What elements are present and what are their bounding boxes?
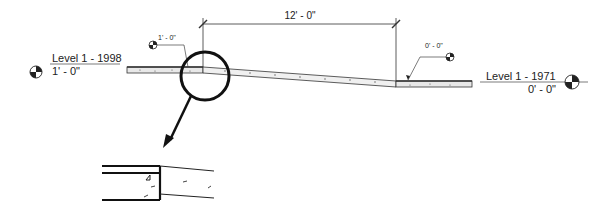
level-marker-left: Level 1 - 1998 1' - 0": [30, 52, 122, 78]
spot-elevation-text: 1' - 0": [158, 34, 176, 41]
spot-elevation-icon: [446, 53, 454, 61]
level-elevation: 0' - 0": [528, 83, 556, 95]
spot-elevation-icon: [149, 41, 157, 49]
level-name: Level 1 - 1971: [486, 70, 556, 82]
level-marker-right: Level 1 - 1971 0' - 0": [480, 70, 588, 95]
level-elevation: 1' - 0": [52, 65, 80, 77]
level-name: Level 1 - 1998: [52, 52, 122, 64]
level-head-icon: [565, 75, 579, 89]
spot-elevation-right: 0' - 0": [406, 42, 454, 80]
spot-elevation-text: 0' - 0": [425, 42, 443, 49]
floor-slab: [127, 67, 472, 87]
enlarged-detail: [102, 166, 214, 200]
section-diagram: 12' - 0" Level 1 - 1998 1' - 0" Level 1 …: [0, 0, 603, 215]
level-head-icon: [30, 66, 42, 78]
dimension-text: 12' - 0": [284, 10, 315, 21]
spot-elevation-left: 1' - 0": [149, 34, 188, 67]
